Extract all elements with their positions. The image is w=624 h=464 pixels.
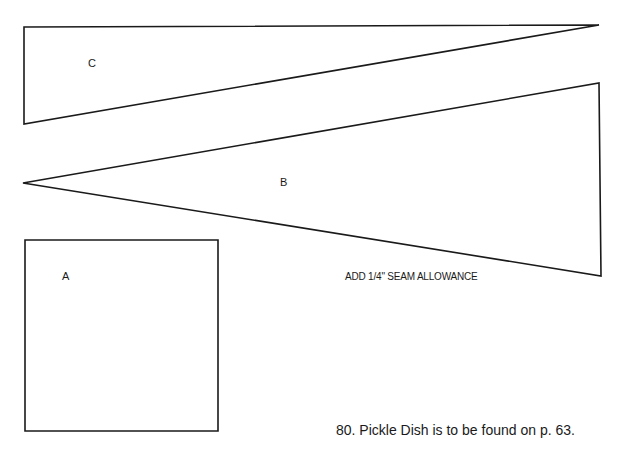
piece-c-outline — [24, 25, 599, 124]
piece-b-outline — [23, 83, 601, 276]
seam-allowance-note: ADD 1/4" SEAM ALLOWANCE — [345, 271, 478, 282]
piece-a-label: A — [62, 270, 69, 282]
pattern-diagram — [0, 0, 624, 464]
piece-b-label: B — [280, 176, 287, 188]
piece-a-outline — [25, 240, 218, 431]
figure-caption: 80. Pickle Dish is to be found on p. 63. — [336, 422, 575, 438]
piece-c-label: C — [88, 57, 96, 69]
